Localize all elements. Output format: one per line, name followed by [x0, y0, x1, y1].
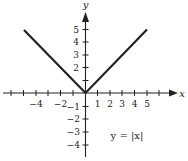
- x-axis-label: x: [179, 88, 185, 99]
- x-tick-label: 3: [119, 99, 125, 109]
- equation-label: y = |x|: [110, 130, 144, 142]
- y-axis-arrow-icon: [82, 12, 89, 22]
- y-tick-label: 3: [73, 50, 79, 60]
- x-axis-arrow-icon: [169, 90, 178, 97]
- y-tick-label: −4: [67, 140, 81, 150]
- x-tick-label: −2: [54, 99, 67, 109]
- x-tick-label: −4: [29, 99, 43, 109]
- y-tick-label: 2: [73, 63, 79, 73]
- x-tick-label: 4: [132, 99, 138, 109]
- y-tick-label: −1: [67, 102, 80, 112]
- y-tick-label: 4: [73, 37, 79, 47]
- y-tick-label: −3: [67, 127, 81, 137]
- x-tick-label: 2: [107, 99, 113, 109]
- y-tick-label: 5: [73, 25, 79, 35]
- x-axis: −4 −2 1 2 3 4 5 x: [3, 88, 185, 109]
- x-tick-label: 1: [95, 99, 101, 109]
- absolute-value-graph: −4 −2 1 2 3 4 5 x 5 4 3 2 −1 −2 −3 −4 y: [0, 0, 188, 161]
- y-tick-label: −2: [67, 114, 80, 124]
- y-axis-label: y: [82, 0, 89, 10]
- x-tick-label: 5: [144, 99, 150, 109]
